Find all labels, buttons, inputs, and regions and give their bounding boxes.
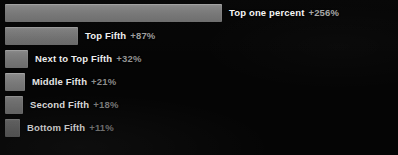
- bar-row: Second Fifth+18%: [5, 96, 119, 114]
- bar-value: +11%: [89, 122, 114, 133]
- bar-label: Second Fifth: [30, 99, 89, 110]
- bar-fill-bottom-fifth: [5, 119, 20, 137]
- bar-label: Top Fifth: [85, 30, 126, 41]
- bar-fill-top-fifth: [5, 27, 78, 45]
- bar-fill-second-fifth: [5, 96, 23, 114]
- bar-row: Top Fifth+87%: [5, 27, 155, 45]
- bar-row: Top one percent+256%: [5, 4, 339, 22]
- bar-label: Top one percent: [229, 7, 304, 18]
- bar-label: Next to Top Fifth: [35, 53, 112, 64]
- bar-value: +32%: [116, 53, 141, 64]
- bar-row: Middle Fifth+21%: [5, 73, 116, 91]
- bar-row: Next to Top Fifth+32%: [5, 50, 141, 68]
- bar-value: +87%: [130, 30, 155, 41]
- bar-fill-next-to-top-fifth: [5, 50, 28, 68]
- bar-caption: Top Fifth+87%: [85, 31, 155, 41]
- bar-fill-middle-fifth: [5, 73, 25, 91]
- bar-value: +18%: [93, 99, 118, 110]
- bar-row: Bottom Fifth+11%: [5, 119, 114, 137]
- bar-label: Middle Fifth: [32, 76, 87, 87]
- bar-caption: Top one percent+256%: [229, 8, 339, 18]
- bar-label: Bottom Fifth: [27, 122, 85, 133]
- bar-caption: Next to Top Fifth+32%: [35, 54, 141, 64]
- income-growth-bar-chart: Top one percent+256% Top Fifth+87% Next …: [0, 0, 398, 155]
- bar-caption: Bottom Fifth+11%: [27, 123, 114, 133]
- bar-fill-top-one-percent: [5, 4, 222, 22]
- chart-plot-area: Top one percent+256% Top Fifth+87% Next …: [0, 0, 398, 155]
- bar-value: +21%: [91, 76, 116, 87]
- bar-caption: Middle Fifth+21%: [32, 77, 116, 87]
- bar-value: +256%: [308, 7, 339, 18]
- bar-caption: Second Fifth+18%: [30, 100, 119, 110]
